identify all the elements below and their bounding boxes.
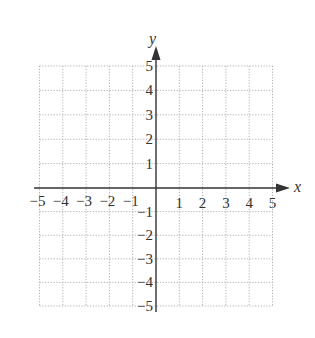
x-tick-label: 5 bbox=[269, 195, 277, 211]
x-tick-label: −5 bbox=[30, 193, 46, 209]
x-tick-label: −2 bbox=[99, 193, 115, 209]
y-tick-label: −1 bbox=[137, 204, 153, 220]
tick-labels: −5−4−3−2−11234554321−1−2−3−4−5 bbox=[30, 58, 277, 314]
y-tick-label: 4 bbox=[146, 82, 154, 98]
y-tick-label: 5 bbox=[146, 58, 154, 74]
x-tick-label: 3 bbox=[222, 195, 230, 211]
x-tick-label: −3 bbox=[76, 193, 92, 209]
y-tick-label: 2 bbox=[146, 131, 154, 147]
y-tick-label: −5 bbox=[137, 298, 153, 314]
y-axis-label: y bbox=[147, 30, 157, 48]
coordinate-plane: x y −5−4−3−2−11234554321−1−2−3−4−5 bbox=[0, 0, 315, 338]
y-tick-label: −4 bbox=[137, 274, 153, 290]
axes bbox=[34, 46, 290, 312]
x-tick-label: −4 bbox=[53, 193, 69, 209]
y-tick-label: 1 bbox=[146, 156, 154, 172]
y-tick-label: 3 bbox=[146, 107, 154, 123]
x-axis-label: x bbox=[293, 178, 301, 195]
x-tick-label: 4 bbox=[245, 195, 253, 211]
y-tick-label: −3 bbox=[137, 251, 153, 267]
x-tick-label: 2 bbox=[199, 195, 207, 211]
x-axis-arrow-icon bbox=[276, 184, 290, 193]
x-tick-label: 1 bbox=[176, 195, 184, 211]
y-tick-label: −2 bbox=[137, 227, 153, 243]
